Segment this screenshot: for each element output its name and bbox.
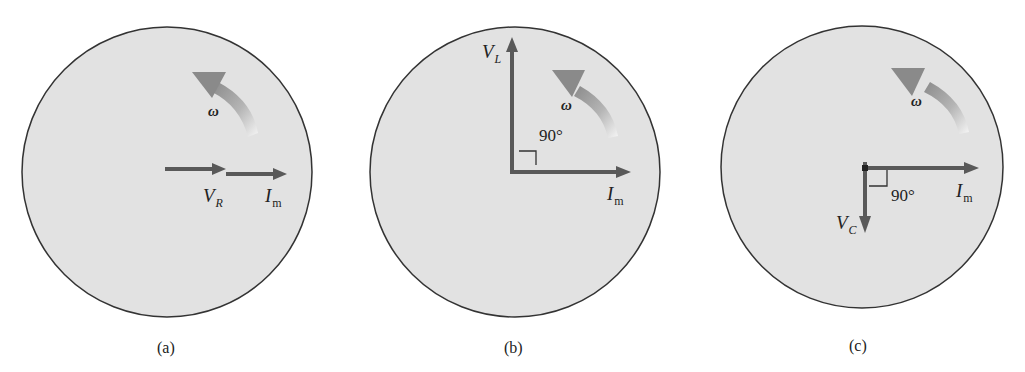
- angle-label: 90°: [539, 127, 563, 144]
- angle-label: 90°: [891, 187, 915, 204]
- im-label-subscript: m: [272, 196, 281, 210]
- im-label: Im: [265, 186, 282, 205]
- vr-label-symbol: V: [203, 185, 215, 206]
- vc-label-symbol: V: [836, 212, 848, 233]
- omega-label: ω: [208, 104, 219, 119]
- phasor-panel-a: ω VR Im (a): [0, 0, 340, 372]
- vl-label-subscript: L: [495, 52, 502, 66]
- im-label-symbol: I: [956, 180, 962, 201]
- vc-label-subscript: C: [849, 223, 857, 237]
- phasor-panel-c: ω 90° Im VC (c): [685, 0, 1025, 372]
- vr-label: VR: [203, 186, 223, 205]
- im-label-symbol: I: [607, 183, 613, 204]
- omega-label: ω: [911, 94, 922, 109]
- phasor-diagram-c: [685, 0, 1025, 372]
- panel-caption-a: (a): [157, 340, 175, 356]
- phasor-panel-b: VL ω 90° Im (b): [340, 0, 685, 372]
- panel-caption-b: (b): [504, 340, 523, 356]
- im-label-symbol: I: [265, 185, 271, 206]
- vl-label-symbol: V: [482, 41, 494, 62]
- panel-caption-c: (c): [849, 338, 867, 354]
- im-label-subscript: m: [963, 191, 972, 205]
- im-label: Im: [956, 181, 973, 200]
- phasor-diagram-b: [340, 0, 685, 372]
- vl-label: VL: [482, 42, 501, 61]
- omega-label: ω: [561, 98, 572, 113]
- vr-label-subscript: R: [216, 196, 223, 210]
- im-label: Im: [607, 184, 624, 203]
- im-label-subscript: m: [614, 194, 623, 208]
- vc-label: VC: [836, 213, 857, 232]
- phasor-diagram-a: [0, 0, 340, 372]
- origin-dot: [862, 165, 868, 171]
